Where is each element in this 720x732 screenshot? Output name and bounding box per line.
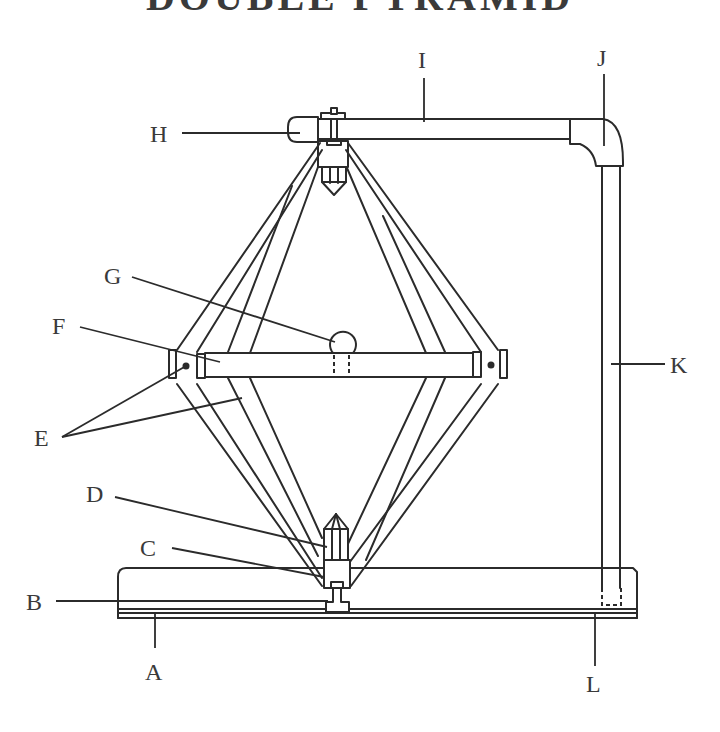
right-pivot bbox=[473, 350, 507, 378]
label-d: D bbox=[86, 481, 103, 507]
label-i: I bbox=[418, 47, 426, 73]
label-f: F bbox=[52, 313, 65, 339]
double-pyramid-diagram: DOUBLE PYRAMID bbox=[0, 0, 720, 732]
base-board bbox=[118, 568, 637, 618]
diagram-title: DOUBLE PYRAMID bbox=[146, 0, 574, 19]
crossbar bbox=[205, 353, 473, 377]
end-cap bbox=[288, 117, 318, 142]
label-a: A bbox=[145, 659, 163, 685]
label-j: J bbox=[597, 45, 606, 71]
label-c: C bbox=[140, 535, 156, 561]
label-g: G bbox=[104, 263, 121, 289]
vertical-pipe bbox=[602, 166, 620, 588]
label-k: K bbox=[670, 352, 688, 378]
elbow-joint bbox=[570, 119, 623, 166]
top-pipe bbox=[318, 119, 570, 139]
label-b: B bbox=[26, 589, 42, 615]
label-e: E bbox=[34, 425, 49, 451]
label-l: L bbox=[586, 671, 601, 697]
label-h: H bbox=[150, 121, 167, 147]
